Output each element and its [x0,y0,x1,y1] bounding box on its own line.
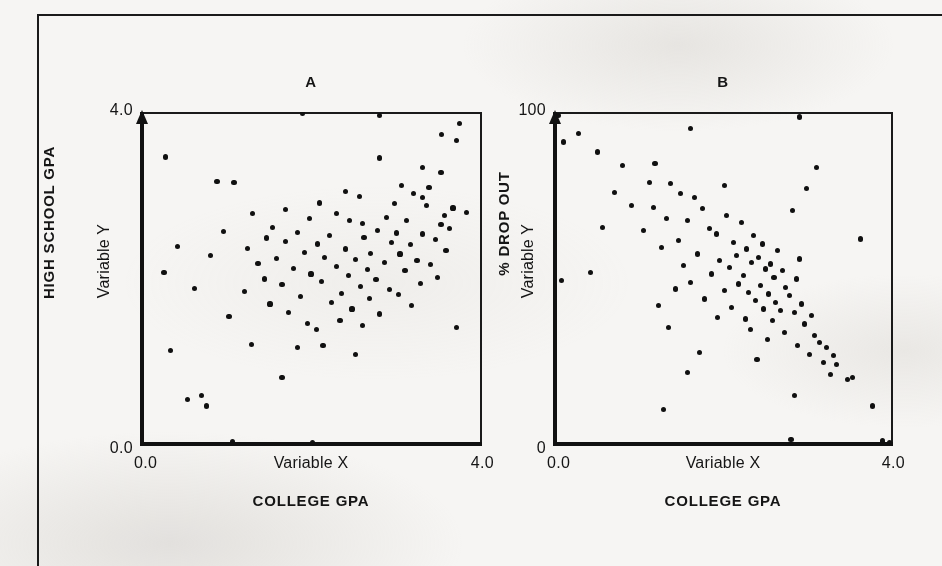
scatter-point [317,200,322,205]
scatter-point [274,256,279,261]
scatter-point [700,206,705,211]
scatter-point [629,203,634,208]
scatter-point [300,112,305,116]
scatter-point [411,191,416,196]
scatter-point [384,215,389,220]
scatter-point [659,245,664,250]
scanned-figure-page: A 4.0 0.0 0.0 4.0 Variable X COLLEGE GPA… [0,0,942,566]
scatter-point [771,275,776,280]
scatter-point [438,170,443,175]
scatter-point [676,238,681,243]
scatter-point [595,149,600,154]
scatter-point [688,280,693,285]
scatter-point [620,163,625,168]
scatter-point [799,301,804,306]
scatter-point [807,352,812,357]
scatter-point [396,292,401,297]
scatter-point [795,343,800,348]
scatter-point [576,131,581,136]
scatter-point [783,285,788,290]
panel-b-plot-area: 100 0 0.0 4.0 Variable X COLLEGE GPA [553,112,893,446]
scatter-point [322,255,327,260]
panel-b-y-tick-top: 100 [518,101,546,119]
scatter-point [279,282,284,287]
scatter-point [741,273,746,278]
scatter-point [652,161,657,166]
scatter-point [790,208,795,213]
scatter-point [387,287,392,292]
scatter-point [375,228,380,233]
scatter-point [382,260,387,265]
scatter-point [709,271,714,276]
scatter-point [802,321,807,326]
scatter-point [339,291,344,296]
scatter-point [724,213,729,218]
scatter-point [377,113,382,118]
scatter-point [464,210,469,215]
scatter-point [360,323,365,328]
scatter-point [754,357,759,362]
panel-a-y-bold-label: HIGH SCHOOL GPA [40,113,57,333]
scatter-point [327,233,332,238]
scatter-point [358,284,363,289]
scatter-point [295,345,300,350]
scatter-point [761,306,766,311]
scatter-point [426,185,431,190]
scatter-point [424,203,429,208]
scatter-point [746,290,751,295]
scatter-point [734,253,739,258]
scatter-point [343,246,348,251]
scatter-point [722,183,727,188]
scatter-point [361,235,366,240]
scatter-point [245,246,250,251]
scatter-point [812,333,817,338]
scatter-point [707,226,712,231]
scatter-point [775,248,780,253]
scatter-point [756,255,761,260]
scatter-point [221,229,226,234]
scatter-point [439,132,444,137]
scatter-point [226,314,231,319]
scatter-point [647,180,652,185]
scatter-point [428,262,433,267]
scatter-point [770,318,775,323]
scatter-point [556,113,561,118]
panel-a-y-tick-top: 4.0 [110,101,133,119]
scatter-point [673,286,678,291]
scatter-point [828,372,833,377]
scatter-panel-a: A 4.0 0.0 0.0 4.0 Variable X COLLEGE GPA… [0,0,500,566]
scatter-point [695,251,700,256]
scatter-point [368,251,373,256]
scatter-point [377,155,382,160]
scatter-point [334,211,339,216]
scatter-point [858,236,863,241]
scatter-point [454,138,459,143]
scatter-point [319,279,324,284]
scatter-point [199,393,204,398]
scatter-point [797,256,802,261]
scatter-point [702,296,707,301]
scatter-point [305,321,310,326]
scatter-point [656,303,661,308]
scatter-point [831,353,836,358]
scatter-point [242,289,247,294]
scatter-point [588,270,593,275]
panel-b-x-variable-label: Variable X [553,454,893,472]
scatter-point [367,296,372,301]
scatter-point [559,278,564,283]
scatter-point [817,340,822,345]
scatter-point [389,240,394,245]
scatter-point [778,308,783,313]
scatter-point [329,300,334,305]
scatter-point [343,189,348,194]
scatter-point [744,246,749,251]
scatter-point [175,244,180,249]
scatter-point [397,251,402,256]
panel-a-y-variable-label: Variable Y [95,151,113,371]
scatter-point [678,191,683,196]
scatter-point [661,407,666,412]
scatter-point [286,310,291,315]
scatter-point [792,310,797,315]
scatter-point [270,225,275,230]
scatter-point [377,311,382,316]
